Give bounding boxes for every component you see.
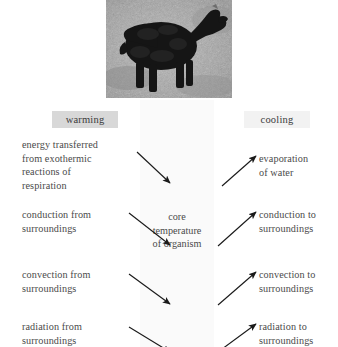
sheep-photo xyxy=(106,0,232,98)
cooling-item-radiation: radiation to surroundings xyxy=(259,320,338,347)
column-header-cooling: cooling xyxy=(244,111,310,128)
arrow-cooling-conduction xyxy=(218,212,256,246)
cooling-item-evaporation: evaporation of water xyxy=(259,152,338,179)
warming-item-radiation: radiation from surroundings xyxy=(22,320,134,347)
arrow-cooling-convection xyxy=(218,272,256,305)
thermoregulation-diagram: warming cooling core temperature of orga… xyxy=(0,0,338,347)
cooling-item-conduction: conduction to surroundings xyxy=(259,208,338,235)
column-header-warming: warming xyxy=(52,111,118,128)
arrow-cooling-evaporation xyxy=(222,156,256,186)
sheep-photo-image xyxy=(106,0,232,98)
cooling-item-convection: convection to surroundings xyxy=(259,268,338,295)
warming-item-convection: convection from surroundings xyxy=(22,268,134,295)
warming-item-respiration: energy transferred from exothermic react… xyxy=(22,138,134,192)
arrow-cooling-radiation xyxy=(218,324,256,347)
warming-item-conduction: conduction from surroundings xyxy=(22,208,134,235)
core-temperature-caption: core temperature of organism xyxy=(135,210,219,251)
